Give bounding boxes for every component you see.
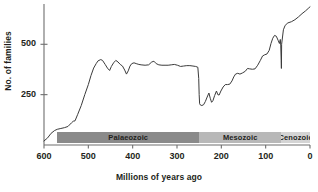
x-tick-label: 400	[118, 151, 148, 161]
x-tick-label: 0	[295, 151, 318, 161]
data-line-no-of-families	[44, 7, 310, 141]
era-label: Mesozoic	[223, 133, 258, 142]
x-tick-label: 300	[162, 151, 192, 161]
x-tick-label: 100	[251, 151, 281, 161]
y-tick-label: 250	[10, 89, 36, 99]
y-axis-title: No. of families	[3, 23, 13, 99]
x-axis-title: Millions of years ago	[0, 172, 318, 182]
era-label: Palaeozoic	[108, 133, 148, 142]
chart-canvas	[0, 0, 318, 192]
chart-figure	[0, 0, 318, 192]
era-segment-mesozoic: Mesozoic	[199, 132, 281, 143]
x-tick-label: 600	[29, 151, 59, 161]
era-segment-cenozoic: Cenozoic	[281, 132, 310, 143]
x-tick-label: 200	[206, 151, 236, 161]
era-segment-palaeozoic: Palaeozoic	[57, 132, 199, 143]
era-label: Cenozoic	[281, 133, 310, 142]
x-tick-label: 500	[73, 151, 103, 161]
y-tick-label: 500	[10, 38, 36, 48]
